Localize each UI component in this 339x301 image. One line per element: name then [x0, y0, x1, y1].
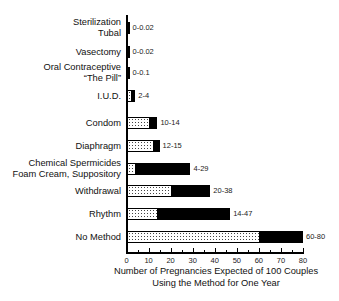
category-label-line: Oral Contraceptive: [43, 62, 121, 73]
x-axis-title: Number of Pregnancies Expected of 100 Co…: [112, 265, 320, 289]
category-label-line: Foam Cream, Suppository: [12, 169, 121, 180]
x-tick-mark: [281, 248, 282, 253]
category-label: Rhythm: [89, 209, 121, 220]
x-tick-label: 20: [166, 256, 174, 265]
category-label-line: “The Pill”: [43, 73, 121, 84]
category-label-line: Diaphragm: [76, 141, 121, 152]
bar-value-label: 0-0.02: [133, 22, 154, 34]
bar-min-segment: [127, 140, 153, 152]
x-tick-mark: [259, 248, 260, 253]
x-tick-label: 30: [189, 256, 197, 265]
category-label-line: Chemical Spermicides: [12, 158, 121, 169]
bar-range-segment: [259, 231, 303, 243]
category-label-line: No Method: [76, 232, 121, 243]
bar-value-label: 0-0.1: [133, 67, 150, 79]
category-label-line: I.U.D.: [97, 91, 121, 102]
x-tick-mark: [248, 250, 249, 253]
category-label-line: Tubal: [73, 28, 121, 39]
x-tick-label: 70: [277, 256, 285, 265]
x-tick-mark: [171, 248, 172, 253]
bar-range-segment: [127, 46, 130, 58]
bar-range-segment: [131, 90, 135, 102]
pregnancy-rate-chart: SterilizationTubal0-0.02Vasectomy0-0.02O…: [0, 0, 339, 301]
x-tick-mark: [193, 248, 194, 253]
bar-min-segment: [127, 163, 136, 175]
bar-range-segment: [135, 163, 190, 175]
category-label: SterilizationTubal: [73, 17, 121, 39]
category-label: Condom: [86, 118, 121, 129]
bar-value-label: 14-47: [233, 208, 252, 220]
x-tick-mark: [149, 248, 150, 253]
x-tick-mark: [204, 250, 205, 253]
x-tick-label: 50: [233, 256, 241, 265]
x-axis-title-line-2: Using the Method for One Year: [112, 277, 320, 289]
x-tick-mark: [226, 250, 227, 253]
x-tick-mark: [127, 248, 128, 253]
bar-range-segment: [157, 208, 230, 220]
x-tick-mark: [182, 250, 183, 253]
bar-value-label: 12-15: [163, 140, 182, 152]
x-tick-mark: [270, 250, 271, 253]
x-tick-label: 80: [299, 256, 307, 265]
x-tick-mark: [138, 250, 139, 253]
x-tick-mark: [215, 248, 216, 253]
bar-range-segment: [127, 67, 130, 79]
bar-range-segment: [171, 185, 211, 197]
category-label-line: Sterilization: [73, 17, 121, 28]
bar-value-label: 60-80: [306, 231, 325, 243]
category-label: No Method: [76, 232, 121, 243]
x-tick-label: 10: [144, 256, 152, 265]
category-label-line: Withdrawal: [75, 186, 121, 197]
bar-value-label: 2-4: [138, 90, 149, 102]
x-tick-mark: [303, 248, 304, 253]
category-label: Diaphragm: [76, 141, 121, 152]
bar-value-label: 4-29: [193, 163, 208, 175]
category-label: Oral Contraceptive“The Pill”: [43, 62, 121, 84]
category-label-line: Condom: [86, 118, 121, 129]
bar-min-segment: [127, 117, 149, 129]
bar-range-segment: [127, 22, 130, 34]
x-tick-mark: [292, 250, 293, 253]
x-tick-label: 0: [124, 256, 128, 265]
bar-range-segment: [153, 140, 160, 152]
bar-value-label: 10-14: [160, 117, 179, 129]
bar-value-label: 0-0.02: [133, 46, 154, 58]
category-label-line: Rhythm: [89, 209, 121, 220]
category-label: I.U.D.: [97, 91, 121, 102]
x-tick-mark: [160, 250, 161, 253]
bar-value-label: 20-38: [213, 185, 232, 197]
x-tick-label: 60: [255, 256, 263, 265]
bar-min-segment: [127, 231, 259, 243]
x-tick-label: 40: [211, 256, 219, 265]
x-axis-title-line-1: Number of Pregnancies Expected of 100 Co…: [112, 265, 320, 277]
category-label-line: Vasectomy: [76, 47, 121, 58]
bar-min-segment: [127, 185, 171, 197]
x-tick-mark: [237, 248, 238, 253]
category-label: Vasectomy: [76, 47, 121, 58]
bar-min-segment: [127, 208, 158, 220]
category-label: Withdrawal: [75, 186, 121, 197]
bar-range-segment: [149, 117, 158, 129]
category-label: Chemical SpermicidesFoam Cream, Supposit…: [12, 158, 121, 180]
